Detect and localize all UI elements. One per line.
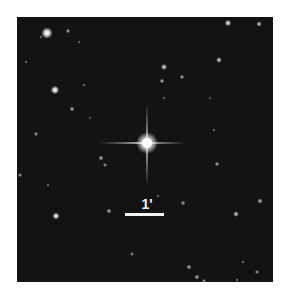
star	[77, 40, 81, 44]
star	[103, 163, 107, 167]
star	[69, 106, 74, 111]
star	[130, 252, 134, 256]
star	[106, 208, 111, 213]
star	[24, 60, 28, 64]
star	[51, 86, 60, 95]
star	[256, 21, 261, 26]
star	[194, 274, 199, 279]
star	[181, 201, 186, 206]
star	[241, 260, 245, 264]
star	[39, 35, 43, 39]
star	[225, 20, 231, 26]
star-field-image	[17, 17, 273, 282]
star	[216, 57, 222, 63]
scale-bar-label: 1'	[132, 197, 162, 211]
star-field	[17, 17, 273, 282]
target-star	[142, 138, 152, 148]
star	[41, 27, 53, 39]
star	[82, 83, 86, 87]
star	[162, 96, 166, 100]
star	[215, 162, 220, 167]
star	[160, 79, 165, 84]
star	[34, 132, 39, 137]
scale-bar	[125, 213, 164, 216]
star	[202, 279, 206, 282]
star	[208, 96, 212, 100]
star	[212, 128, 216, 132]
star	[52, 212, 59, 219]
star	[186, 264, 191, 269]
star	[88, 116, 92, 120]
star	[235, 278, 239, 282]
star	[257, 198, 262, 203]
star	[180, 75, 185, 80]
star	[46, 183, 50, 187]
star	[233, 211, 239, 217]
star	[161, 64, 167, 70]
star	[18, 173, 22, 177]
star	[98, 155, 103, 160]
star	[66, 29, 71, 34]
star	[255, 270, 259, 274]
